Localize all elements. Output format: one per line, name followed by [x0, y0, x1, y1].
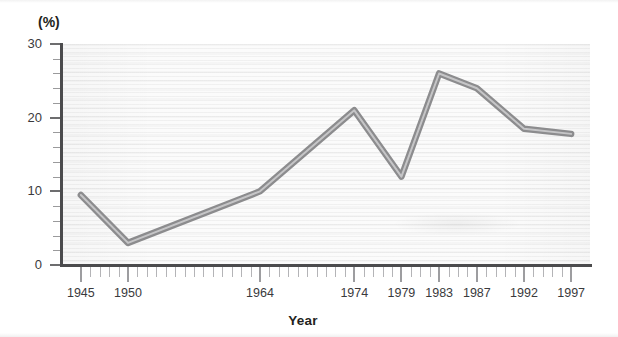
- y-axis-major-tick: [50, 190, 60, 192]
- x-axis-major-tick: [438, 267, 440, 282]
- x-axis-minor-tick: [392, 267, 393, 277]
- x-axis-minor-tick: [326, 267, 327, 277]
- x-axis-minor-tick: [420, 267, 421, 277]
- x-axis-minor-tick: [90, 267, 91, 277]
- x-axis-major-tick: [353, 267, 355, 282]
- x-axis-tick-label: 1945: [67, 286, 95, 300]
- y-axis-tick-label: 10: [8, 184, 42, 197]
- x-axis-minor-tick: [496, 267, 497, 277]
- x-axis-minor-tick: [364, 267, 365, 277]
- x-axis-minor-tick: [345, 267, 346, 277]
- x-axis-major-tick: [476, 267, 478, 282]
- page-vignette: [62, 44, 590, 266]
- y-axis-minor-tick: [53, 103, 60, 104]
- x-axis-minor-tick: [288, 267, 289, 277]
- y-axis-minor-tick: [53, 236, 60, 237]
- x-axis-minor-tick: [317, 267, 318, 277]
- x-axis-minor-tick: [383, 267, 384, 277]
- y-axis-tick-label: 20: [8, 111, 42, 124]
- y-axis-minor-tick: [53, 73, 60, 74]
- x-axis-minor-tick: [486, 267, 487, 277]
- x-axis-minor-tick: [203, 267, 204, 277]
- x-axis-major-tick: [400, 267, 402, 282]
- x-axis-major-tick: [127, 267, 129, 282]
- x-axis-minor-tick: [298, 267, 299, 277]
- x-axis-minor-tick: [222, 267, 223, 277]
- x-axis-minor-tick: [411, 267, 412, 277]
- x-axis-minor-tick: [137, 267, 138, 277]
- y-axis-minor-tick: [53, 206, 60, 207]
- x-axis-minor-tick: [449, 267, 450, 277]
- x-axis-minor-tick: [515, 267, 516, 277]
- y-axis-minor-tick: [53, 132, 60, 133]
- x-axis-major-tick: [570, 267, 572, 282]
- y-axis-major-tick: [50, 117, 60, 119]
- x-axis-minor-tick: [373, 267, 374, 277]
- x-axis-minor-tick: [269, 267, 270, 277]
- page-edge-shadow-top: [0, 0, 618, 3]
- y-axis-minor-tick: [53, 162, 60, 163]
- x-axis-tick-label: 1950: [114, 286, 142, 300]
- x-axis-minor-tick: [185, 267, 186, 277]
- x-axis-major-tick: [80, 267, 82, 282]
- y-axis-minor-tick: [53, 250, 60, 251]
- x-axis-minor-tick: [213, 267, 214, 277]
- x-axis-minor-tick: [194, 267, 195, 277]
- y-axis-minor-tick: [53, 147, 60, 148]
- x-axis-minor-tick: [458, 267, 459, 277]
- x-axis-tick-label: 1979: [388, 286, 416, 300]
- y-axis-line: [60, 43, 63, 267]
- chart-container: (%) 0102030 1945195019641974197919831987…: [0, 0, 618, 337]
- y-axis-tick-label: 30: [8, 37, 42, 50]
- x-axis-minor-tick: [232, 267, 233, 277]
- x-axis-minor-tick: [505, 267, 506, 277]
- x-axis-minor-tick: [533, 267, 534, 277]
- x-axis-minor-tick: [543, 267, 544, 277]
- x-axis-minor-tick: [307, 267, 308, 277]
- photocopy-smudge: [392, 212, 522, 236]
- y-axis-unit-label: (%): [38, 14, 60, 30]
- x-axis-minor-tick: [109, 267, 110, 277]
- plot-area: [62, 44, 590, 266]
- x-axis-minor-tick: [251, 267, 252, 277]
- y-axis-minor-tick: [53, 59, 60, 60]
- scanline-texture-secondary: [62, 44, 590, 266]
- x-axis-minor-tick: [100, 267, 101, 277]
- x-axis-minor-tick: [147, 267, 148, 277]
- x-axis-tick-label: 1983: [425, 286, 453, 300]
- x-axis-major-tick: [523, 267, 525, 282]
- x-axis-minor-tick: [175, 267, 176, 277]
- x-axis-minor-tick: [166, 267, 167, 277]
- x-axis-minor-tick: [241, 267, 242, 277]
- x-axis-minor-tick: [467, 267, 468, 277]
- y-axis-major-tick: [50, 43, 60, 45]
- x-axis-tick-label: 1964: [246, 286, 274, 300]
- y-axis-minor-tick: [53, 221, 60, 222]
- x-axis-tick-label: 1997: [557, 286, 585, 300]
- x-axis-minor-tick: [156, 267, 157, 277]
- x-axis-minor-tick: [119, 267, 120, 277]
- x-axis-tick-label: 1992: [510, 286, 538, 300]
- x-axis-minor-tick: [335, 267, 336, 277]
- scanline-texture: [62, 44, 590, 266]
- y-axis-major-tick: [50, 264, 60, 266]
- page-edge-shadow-bottom: [0, 333, 618, 337]
- y-axis-minor-tick: [53, 88, 60, 89]
- x-axis-minor-tick: [562, 267, 563, 277]
- x-axis-minor-tick: [552, 267, 553, 277]
- y-axis-minor-tick: [53, 177, 60, 178]
- x-axis-tick-label: 1974: [340, 286, 368, 300]
- x-axis-title: Year: [0, 313, 618, 328]
- x-axis-major-tick: [259, 267, 261, 282]
- x-axis-title-text: Year: [288, 313, 318, 328]
- x-axis-minor-tick: [430, 267, 431, 277]
- y-axis-tick-label: 0: [8, 258, 42, 271]
- x-axis-minor-tick: [279, 267, 280, 277]
- x-axis-tick-label: 1987: [463, 286, 491, 300]
